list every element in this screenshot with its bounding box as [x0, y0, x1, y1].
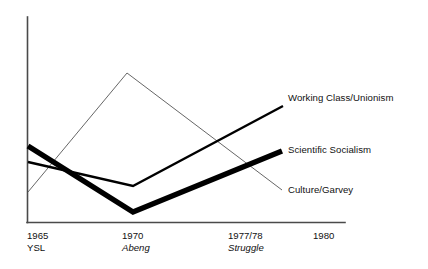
chart-canvas: [0, 0, 428, 269]
x-tick-sublabel: Abeng: [122, 242, 150, 254]
line-chart-figure: Working Class/Unionism Scientific Social…: [0, 0, 428, 269]
x-tick-year: 1980: [313, 230, 334, 242]
x-tick-sublabel: Struggle: [228, 242, 264, 254]
series-label-scientific-socialism: Scientific Socialism: [288, 144, 371, 155]
x-tick-1965: 1965 YSL: [27, 230, 48, 254]
series-line-scientific-socialism: [28, 146, 282, 212]
x-tick-1980: 1980: [313, 230, 334, 242]
x-tick-1970: 1970 Abeng: [122, 230, 150, 254]
x-tick-year: 1977/78: [228, 230, 264, 242]
x-tick-year: 1965: [27, 230, 48, 242]
series-label-working-class-unionism: Working Class/Unionism: [288, 92, 393, 103]
series-label-culture-garvey: Culture/Garvey: [288, 184, 353, 195]
x-tick-year: 1970: [122, 230, 150, 242]
x-tick-1977-78: 1977/78 Struggle: [228, 230, 264, 254]
x-tick-sublabel: YSL: [27, 242, 48, 254]
